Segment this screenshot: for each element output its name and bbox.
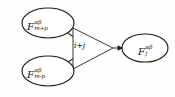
node-bottom-left-label-base: F bbox=[27, 69, 34, 80]
diagram-canvas: Fαβm+p Fαβm-p Fαβj i+j bbox=[0, 0, 175, 97]
node-right-label-base: F bbox=[138, 46, 145, 57]
operator-label: i+j bbox=[74, 42, 85, 50]
node-right-label: Fαβj bbox=[138, 42, 145, 58]
node-bottom-left-label: Fαβm-p bbox=[27, 65, 34, 81]
node-top-left-label: Fαβm+p bbox=[27, 17, 34, 33]
node-top-left-label-base: F bbox=[27, 21, 34, 32]
